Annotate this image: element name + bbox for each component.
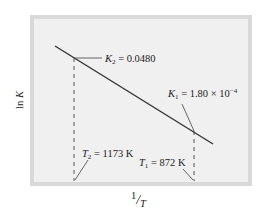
ln-k-vs-inverse-t-diagram: K2 = 0.0480 K1 = 1.80 × 10−4 T2 = 1173 K… bbox=[0, 0, 268, 214]
svg-text:T: T bbox=[140, 198, 147, 209]
x-axis-label: 1 T bbox=[131, 190, 147, 209]
svg-text:1: 1 bbox=[131, 190, 136, 201]
y-axis-label: ln K bbox=[14, 90, 25, 109]
k1-label: K1 = 1.80 × 10−4 bbox=[167, 87, 238, 101]
